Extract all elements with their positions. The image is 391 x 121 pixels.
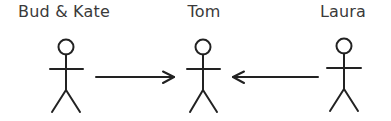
stick-figure-icon-laura: [327, 39, 361, 112]
diagram-canvas: [0, 0, 391, 121]
stick-figure-icon-bud-kate: [50, 40, 83, 113]
arrow-left-icon: [233, 72, 318, 84]
stick-figure-icon-tom: [187, 40, 220, 113]
actor-diagram: Bud & Kate Tom Laura: [0, 0, 391, 121]
arrow-right-icon: [96, 72, 174, 84]
